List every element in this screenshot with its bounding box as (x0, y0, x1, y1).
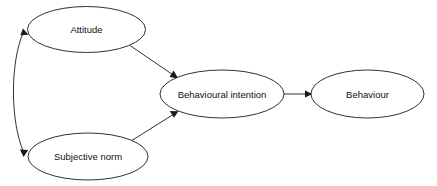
node-behaviour-shape[interactable] (311, 70, 424, 118)
subjective-norm-intention-line (131, 114, 174, 141)
node-attitude[interactable]: Attitude (28, 7, 146, 53)
arrow-head-icon-to-subjective-norm (20, 150, 28, 157)
edge-attitude-to-intention (130, 46, 178, 79)
node-subjective-norm[interactable]: Subjective norm (28, 133, 148, 180)
arrow-head-icon-subjective-norm-intention (170, 111, 179, 118)
edge-subjective-norm-to-intention (131, 111, 178, 141)
node-subjective-norm-shape[interactable] (28, 133, 148, 180)
node-behavioural-intention-shape[interactable] (160, 70, 284, 118)
correlation-curve (13, 32, 24, 153)
node-attitude-shape[interactable] (28, 7, 146, 53)
node-behaviour[interactable]: Behaviour (311, 70, 424, 118)
diagram-canvas: Attitude Subjective norm Behavioural int… (0, 0, 437, 186)
edge-intention-to-behaviour (284, 90, 313, 97)
diagram-svg: Attitude Subjective norm Behavioural int… (0, 0, 437, 186)
node-behavioural-intention[interactable]: Behavioural intention (160, 70, 284, 118)
attitude-intention-line (130, 46, 174, 76)
edge-attitude-subjective-norm-correlation (13, 29, 28, 158)
